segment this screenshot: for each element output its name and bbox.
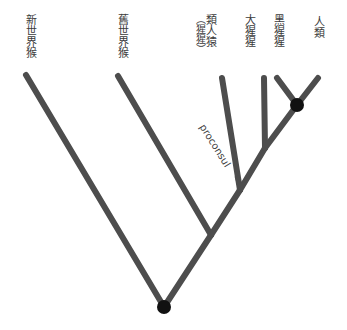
taxon-label-gorilla: 大猩猩: [243, 14, 255, 47]
branch-new-world-monkey: [26, 75, 164, 307]
branch-ape: [222, 78, 240, 190]
taxon-label-chimpanzee: 黑猩猩: [272, 14, 284, 47]
branch-old-world-monkey: [118, 76, 211, 235]
taxon-label-human: 人類: [312, 16, 324, 38]
branch-gorilla: [264, 78, 265, 148]
taxon-label-ape: 類人猿: [205, 14, 217, 47]
tree-branches: [26, 75, 318, 307]
phylogenetic-tree-figure: 新世界猴 舊世界猴 類人猿 （猩猩） 大猩猩 黑猩猩 人類 proconsul: [0, 0, 347, 330]
tree-diagram: [0, 0, 347, 330]
node-chimp-human-marker: [290, 98, 304, 112]
taxon-label-new-world-monkey: 新世界猴: [24, 14, 36, 58]
node-root-marker: [157, 300, 171, 314]
branch-catarrhine-to-hominid: [211, 190, 240, 235]
taxon-label-ape-group: 類人猿 （猩猩）: [194, 14, 216, 54]
branch-hominid-to-gorilla-split: [240, 148, 265, 190]
taxon-label-ape-sub: （猩猩）: [194, 14, 205, 54]
taxon-label-old-world-monkey: 舊世界猴: [116, 14, 128, 58]
branch-gorilla-split-to-chimp-human: [265, 105, 297, 148]
branch-root-to-catarrhine: [164, 235, 211, 307]
